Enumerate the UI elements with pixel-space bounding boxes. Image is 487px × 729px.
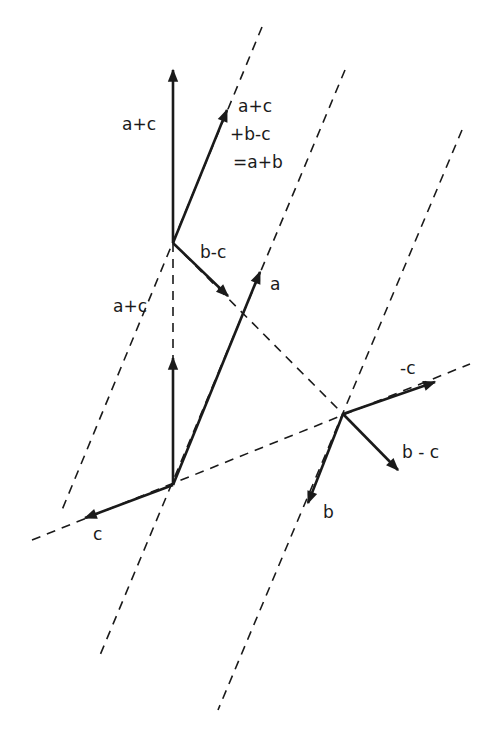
label-b-minus-c-upper: b-c — [200, 242, 226, 262]
label-sum-line1: a+c — [238, 96, 272, 116]
dashed-line-left — [62, 27, 262, 510]
vector-diagram: a+c a+c +b-c =a+b b-c a a+c -c b - c b c — [0, 0, 487, 729]
vector-b — [308, 414, 343, 503]
label-sum-line2: +b-c — [230, 124, 271, 144]
label-b: b — [323, 502, 334, 522]
vector-b-minus-c-right — [343, 414, 398, 470]
label-b-minus-c-right: b - c — [402, 442, 439, 462]
label-a-plus-c-lower: a+c — [113, 296, 147, 316]
label-neg-c: -c — [400, 358, 415, 378]
label-a: a — [270, 274, 280, 294]
labels: a+c a+c +b-c =a+b b-c a a+c -c b - c b c — [93, 96, 439, 544]
vector-a-plus-b — [173, 110, 227, 243]
label-a-plus-c-top: a+c — [122, 114, 156, 134]
label-c: c — [93, 524, 102, 544]
label-sum-line3: =a+b — [233, 152, 283, 172]
vector-neg-c — [343, 382, 435, 414]
